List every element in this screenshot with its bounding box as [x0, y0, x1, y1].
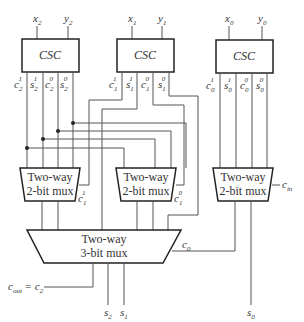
- label-s1-1: s11: [126, 75, 133, 93]
- label-c2-1: c21: [14, 75, 23, 93]
- output-s1: s1: [120, 306, 128, 321]
- label-s0-1: s01: [224, 76, 232, 94]
- mux3: Two-way 3-bit mux: [27, 230, 181, 263]
- csc-label: CSC: [39, 48, 62, 62]
- mux2-middle: Two-way 2-bit mux: [116, 168, 176, 201]
- csc-input-wires: [37, 26, 262, 40]
- csc-label: CSC: [134, 48, 157, 62]
- mux-label-line1: Two-way: [123, 170, 168, 184]
- mux3-label-line2: 3-bit mux: [81, 246, 128, 260]
- input-x1: x1: [127, 12, 136, 27]
- mux3-label-line1: Two-way: [81, 232, 126, 246]
- input-x0: x0: [224, 12, 234, 27]
- label-c2-0: c20: [45, 75, 54, 93]
- mux-label-line2: 2-bit mux: [123, 184, 170, 198]
- csc-block-1: CSC: [117, 39, 174, 72]
- output-s0: s0: [247, 306, 255, 321]
- csc-output-labels: c21 s21 c20 s20 c11 s11 c10 s10 c01 s01 …: [14, 75, 264, 94]
- select-label-c1-0: c10: [174, 189, 182, 207]
- mux-label-line2: 2-bit mux: [27, 184, 74, 198]
- output-s2: s2: [104, 306, 112, 321]
- csc-label: CSC: [233, 49, 256, 63]
- input-x2: x2: [32, 12, 42, 27]
- label-c0-0: c00: [240, 76, 249, 94]
- mux-label-line1: Two-way: [220, 170, 265, 184]
- input-y2: y2: [63, 12, 73, 27]
- mux-label-line2: 2-bit mux: [220, 184, 267, 198]
- label-c1-1: c11: [109, 75, 117, 93]
- mux-label-line1: Two-way: [27, 170, 72, 184]
- label-c0-1: c01: [206, 76, 215, 94]
- label-s1-0: s10: [158, 75, 166, 93]
- csc-block-0: CSC: [216, 40, 273, 73]
- label-c1-0: c10: [141, 75, 149, 93]
- output-cout: cout = c2: [8, 280, 44, 295]
- mux2-left: Two-way 2-bit mux: [20, 168, 80, 201]
- label-s0-0: s00: [256, 76, 264, 94]
- input-y1: y1: [157, 12, 166, 27]
- csc-block-2: CSC: [22, 39, 79, 72]
- input-y0: y0: [257, 12, 267, 27]
- mux2-right: Two-way 2-bit mux: [213, 168, 273, 201]
- select-label-c1-1: c11: [78, 189, 86, 207]
- select-label-cin: cin: [282, 178, 293, 193]
- mux3-output-wires: [44, 263, 124, 305]
- label-s2-1: s21: [30, 75, 38, 93]
- csc-input-labels: x2 y2 x1 y1 x0 y0: [32, 12, 267, 27]
- carry-select-adder-diagram: x2 y2 x1 y1 x0 y0 CSC CSC CSC c21 s21 c2…: [0, 0, 304, 322]
- label-s2-0: s20: [60, 75, 68, 93]
